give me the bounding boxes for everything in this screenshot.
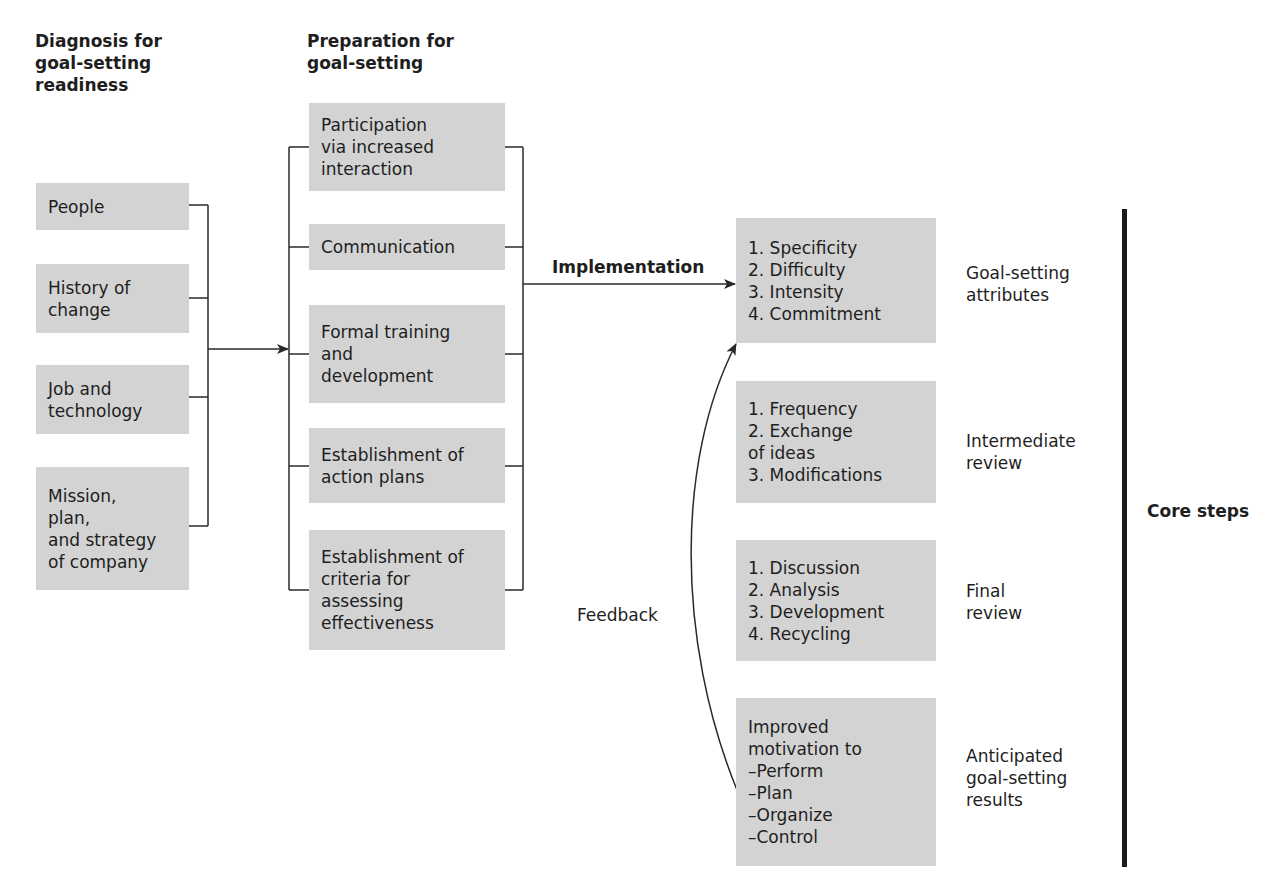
preparation-box-participation: Participation via increased interaction xyxy=(309,103,505,191)
diagnosis-box-history: History of change xyxy=(36,264,189,333)
box-label: Formal training and development xyxy=(321,321,450,387)
stage-label-intermediate: Intermediate review xyxy=(966,430,1076,474)
stage-box-intermediate-review: 1. Frequency 2. Exchange of ideas 3. Mod… xyxy=(736,381,936,503)
stage-box-anticipated-results: Improved motivation to –Perform –Plan –O… xyxy=(736,698,936,866)
connector-lines xyxy=(0,0,1288,892)
preparation-box-communication: Communication xyxy=(309,224,505,270)
preparation-box-training: Formal training and development xyxy=(309,305,505,403)
box-label: Communication xyxy=(321,236,455,258)
box-label: People xyxy=(48,196,104,218)
stage-box-attributes: 1. Specificity 2. Difficulty 3. Intensit… xyxy=(736,218,936,343)
stage-box-final-review: 1. Discussion 2. Analysis 3. Development… xyxy=(736,540,936,661)
stage-content: 1. Frequency 2. Exchange of ideas 3. Mod… xyxy=(748,398,882,486)
box-label: History of change xyxy=(48,277,130,321)
stage-content: Improved motivation to –Perform –Plan –O… xyxy=(748,716,862,848)
box-label: Mission, plan, and strategy of company xyxy=(48,485,156,573)
stage-label-final: Final review xyxy=(966,580,1022,624)
core-steps-bar xyxy=(1122,209,1127,867)
box-label: Job and technology xyxy=(48,378,142,422)
stage-content: 1. Specificity 2. Difficulty 3. Intensit… xyxy=(748,237,881,325)
diagnosis-box-job-technology: Job and technology xyxy=(36,365,189,434)
stage-label-attributes: Goal-setting attributes xyxy=(966,262,1070,306)
stage-label-anticipated: Anticipated goal-setting results xyxy=(966,745,1067,811)
stage-content: 1. Discussion 2. Analysis 3. Development… xyxy=(748,557,884,645)
box-label: Participation via increased interaction xyxy=(321,114,434,180)
preparation-box-action-plans: Establishment of action plans xyxy=(309,428,505,503)
core-steps-label: Core steps xyxy=(1147,500,1249,522)
implementation-label: Implementation xyxy=(552,256,704,278)
box-label: Establishment of action plans xyxy=(321,444,464,488)
feedback-label: Feedback xyxy=(577,604,658,626)
preparation-header: Preparation for goal-setting xyxy=(307,30,454,74)
diagnosis-box-mission: Mission, plan, and strategy of company xyxy=(36,467,189,590)
box-label: Establishment of criteria for assessing … xyxy=(321,546,464,634)
preparation-box-criteria: Establishment of criteria for assessing … xyxy=(309,530,505,650)
diagnosis-box-people: People xyxy=(36,183,189,230)
diagnosis-header: Diagnosis for goal-setting readiness xyxy=(35,30,162,96)
